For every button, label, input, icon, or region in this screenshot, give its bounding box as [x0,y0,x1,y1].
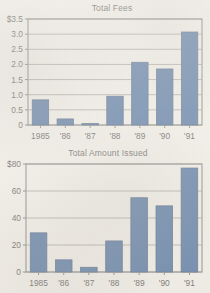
x-axis-category-label: '89 [134,131,145,141]
x-axis-category-label: 1985 [31,131,50,141]
plot-svg-total-fees: 00.51.01.52.02.53.0$3.51985'86'87'88'89'… [0,15,210,146]
x-axis-category-label: '87 [85,131,96,141]
bar [81,267,98,272]
y-axis-tick-label: 3.0 [11,29,23,39]
x-axis-category-label: '86 [60,131,71,141]
y-axis-tick-label: 1.5 [11,75,23,85]
bar [181,168,198,272]
x-axis-category-label: '90 [159,131,170,141]
y-axis-tick-label: 20 [12,240,22,250]
y-axis-tick-label: 0.5 [11,105,23,115]
x-axis-category-label: 1985 [29,278,48,288]
y-axis-tick-label: 2.5 [11,44,23,54]
bar [106,241,123,272]
chart-title-total-fees: Total Fees [0,3,210,13]
bar [82,123,98,125]
bar [157,69,173,125]
bar [131,198,148,272]
x-axis-category-label: '88 [109,278,120,288]
bar [57,119,73,125]
bar [132,62,148,125]
y-axis-tick-label: 2.0 [11,59,23,69]
bar [55,260,72,272]
chart-title-total-amount-issued: Total Amount Issued [0,148,210,158]
y-axis-tick-label: $80 [7,159,21,169]
y-axis-tick-label: 40 [12,213,22,223]
x-axis-category-label: '88 [110,131,121,141]
plot-svg-total-amount-issued: 0204060$801985'86'87'88'89'90'91 [0,159,210,293]
bar [107,96,123,125]
chart-total-fees: Total Fees 00.51.01.52.02.53.0$3.51985'8… [0,0,210,146]
x-axis-category-label: '91 [184,278,195,288]
y-axis-tick-label: 1.0 [11,90,23,100]
bar [181,32,197,125]
plot-area-total-fees: 00.51.01.52.02.53.0$3.51985'86'87'88'89'… [0,15,210,146]
x-axis-category-label: '90 [159,278,170,288]
x-axis-category-label: '91 [184,131,195,141]
x-axis-category-label: '86 [58,278,69,288]
x-axis-category-label: '87 [83,278,94,288]
bar [32,100,48,125]
y-axis-tick-label: 60 [12,186,22,196]
bar [156,206,173,272]
x-axis-category-label: '89 [134,278,145,288]
y-axis-tick-label: 0 [16,267,21,277]
bar [30,233,47,272]
y-axis-tick-label: $3.5 [7,15,24,24]
y-axis-tick-label: 0 [18,120,23,130]
plot-area-total-amount-issued: 0204060$801985'86'87'88'89'90'91 [0,159,210,293]
chart-total-amount-issued: Total Amount Issued 0204060$801985'86'87… [0,146,210,293]
